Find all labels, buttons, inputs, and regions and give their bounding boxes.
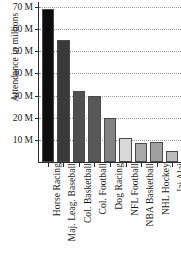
- gridline: [39, 29, 181, 30]
- y-tick-label: 50 M: [13, 46, 33, 56]
- x-axis-label: NHL Hockey: [161, 163, 171, 215]
- bar: [88, 96, 100, 162]
- y-tick-label: 70 M: [13, 2, 33, 12]
- x-axis-label: NBA Basketball: [145, 163, 155, 226]
- x-axis-label: NFL Football: [130, 163, 140, 216]
- y-tick-mark: [35, 96, 39, 97]
- x-axis-label: Col. Basketball: [83, 163, 93, 223]
- y-tick-mark: [35, 140, 39, 141]
- bar: [119, 138, 131, 162]
- y-axis-line: [38, 2, 39, 163]
- y-tick-label: 20 M: [13, 113, 33, 123]
- x-axis-label: Horse Racing: [52, 163, 62, 216]
- y-tick-mark: [35, 29, 39, 30]
- x-axis-label: Dog Racing: [114, 163, 124, 210]
- y-tick-mark: [35, 51, 39, 52]
- bar: [57, 40, 69, 162]
- y-tick-mark: [35, 73, 39, 74]
- gridline: [39, 7, 181, 8]
- y-tick-label: 60 M: [13, 24, 33, 34]
- x-axis-label: Maj. Leag. Baseball: [67, 163, 77, 241]
- y-tick-mark: [35, 118, 39, 119]
- bar: [104, 118, 116, 162]
- x-axis-label: Jai Alai: [176, 163, 181, 193]
- y-tick-label: 10 M: [13, 135, 33, 145]
- plot-area: 10 M20 M30 M40 M50 M60 M70 M: [38, 2, 181, 163]
- bar: [135, 143, 147, 162]
- chart-figure: Attendance in millions 10 M20 M30 M40 M5…: [0, 0, 181, 267]
- x-axis-labels-group: Horse RacingMaj. Leag. BaseballCol. Bask…: [38, 163, 181, 267]
- y-tick-label: 30 M: [13, 91, 33, 101]
- y-tick-mark: [35, 7, 39, 8]
- bar: [166, 151, 178, 162]
- bar: [73, 91, 85, 162]
- bar: [42, 9, 54, 162]
- y-tick-label: 40 M: [13, 68, 33, 78]
- bar: [150, 142, 162, 162]
- x-axis-label: Col. Football: [98, 163, 108, 214]
